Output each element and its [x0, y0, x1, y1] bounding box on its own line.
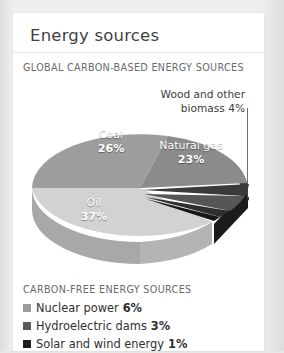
pie-label-coal: Coal 26% [76, 128, 146, 155]
pie-label-oil-name: Oil [64, 196, 124, 210]
legend-item-nuclear-power: Nuclear power 6% [23, 299, 258, 317]
section-header-carbon-based: GLOBAL CARBON-BASED ENERGY SOURCES [23, 62, 244, 73]
pie-label-natural-gas: Natural gas 23% [146, 139, 236, 166]
legend-label-nuclear-power: Nuclear power [36, 301, 119, 315]
pie-label-coal-percent: 26% [76, 142, 146, 156]
legend-item-hydroelectric-dams: Hydroelectric dams 3% [23, 317, 258, 335]
pie-chart: Coal 26% Natural gas 23% Oil 37% [16, 104, 264, 274]
legend-label-solar-and-wind-energy: Solar and wind energy [36, 337, 164, 351]
legend-label-hydroelectric-dams: Hydroelectric dams [36, 319, 147, 333]
pie-label-coal-name: Coal [76, 128, 146, 142]
legend-swatch-nuclear-power [23, 304, 31, 312]
legend-swatch-solar-and-wind-energy [23, 340, 31, 348]
legend-swatch-hydroelectric-dams [23, 322, 31, 330]
legend-value-solar-and-wind-energy: 1% [168, 337, 187, 351]
title-divider [13, 52, 264, 53]
pie-label-natural-gas-name: Natural gas [146, 139, 236, 153]
energy-sources-card: Energy sources GLOBAL CARBON-BASED ENERG… [13, 13, 264, 351]
pie-label-oil-percent: 37% [64, 210, 124, 224]
pie-label-natural-gas-percent: 23% [146, 153, 236, 167]
legend-list: Nuclear power 6% Hydroelectric dams 3% S… [23, 299, 258, 353]
page-title: Energy sources [30, 26, 159, 45]
biomass-callout-line1: Wood and other [161, 88, 245, 100]
section-header-carbon-free: CARBON-FREE ENERGY SOURCES [23, 284, 192, 295]
legend-item-solar-and-wind-energy: Solar and wind energy 1% [23, 335, 258, 353]
pie-label-oil: Oil 37% [64, 196, 124, 223]
legend-value-hydroelectric-dams: 3% [151, 319, 170, 333]
legend-value-nuclear-power: 6% [123, 301, 142, 315]
